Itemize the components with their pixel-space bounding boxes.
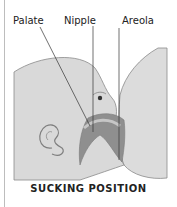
areola-label: Areola — [122, 15, 154, 26]
breast-shape — [119, 48, 167, 178]
palate-label: Palate — [13, 15, 44, 26]
sucking-position-illustration — [0, 0, 177, 207]
nipple-label: Nipple — [64, 15, 96, 26]
diagram-caption: SUCKING POSITION — [0, 183, 177, 194]
eye — [98, 96, 102, 100]
